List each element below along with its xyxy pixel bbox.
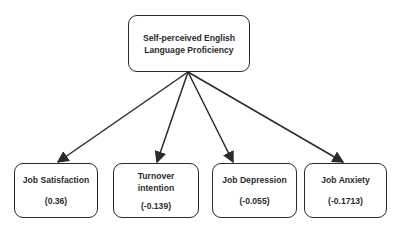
arrow-to-job-satisfaction bbox=[58, 72, 188, 162]
arrow-to-turnover-intention bbox=[157, 72, 188, 162]
node-value: (-0.1713) bbox=[328, 195, 363, 207]
root-label-line2: Language Proficiency bbox=[144, 44, 233, 56]
node-job-satisfaction: Job Satisfaction (0.36) bbox=[14, 163, 98, 218]
root-label-line1: Self-perceived English bbox=[143, 32, 235, 44]
node-value: (0.36) bbox=[45, 195, 67, 207]
node-label: Job Depression bbox=[222, 174, 286, 186]
node-job-anxiety: Job Anxiety (-0.1713) bbox=[304, 163, 387, 218]
node-label: Job Satisfaction bbox=[23, 174, 89, 186]
node-label-line2: intention bbox=[138, 182, 174, 194]
root-node: Self-perceived English Language Proficie… bbox=[128, 15, 250, 72]
node-job-depression: Job Depression (-0.055) bbox=[212, 163, 297, 218]
node-value: (-0.055) bbox=[239, 195, 269, 207]
node-turnover-intention: Turnover intention (-0.139) bbox=[113, 163, 199, 218]
node-label: Job Anxiety bbox=[321, 174, 369, 186]
node-value: (-0.139) bbox=[141, 200, 171, 212]
node-label-line1: Turnover bbox=[138, 170, 175, 182]
